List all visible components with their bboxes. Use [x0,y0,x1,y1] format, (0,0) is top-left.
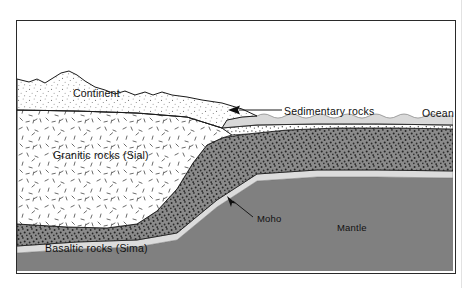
label-moho: Moho [257,213,282,224]
figure-root: Continent Sedimentary rocks Ocean Granit… [0,0,468,288]
label-mantle: Mantle [337,222,367,233]
label-basaltic-rocks: Basaltic rocks (Sima) [45,242,148,254]
label-continent: Continent [73,87,120,99]
label-ocean: Ocean [422,107,454,119]
label-granitic-rocks: Granitic rocks (Sial) [53,149,149,161]
geological-cross-section-svg [17,21,453,271]
page-edge-line [461,0,462,288]
diagram-frame: Continent Sedimentary rocks Ocean Granit… [16,20,456,274]
label-sedimentary-rocks: Sedimentary rocks [284,105,374,117]
